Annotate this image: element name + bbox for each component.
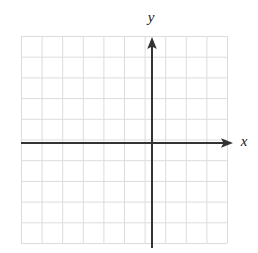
x-axis-label: x: [236, 134, 252, 149]
y-axis-label: y: [143, 10, 159, 25]
coordinate-grid-svg: [0, 0, 258, 253]
figure-background: [0, 0, 258, 253]
coordinate-plane-figure: y x: [0, 0, 258, 253]
